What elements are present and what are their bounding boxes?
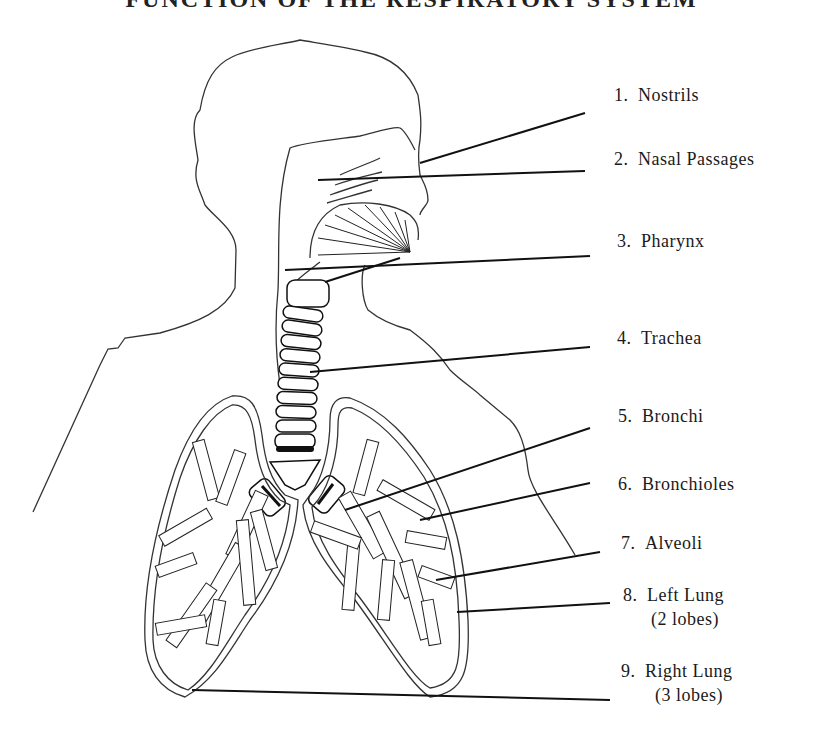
label-alveoli: 7.Alveoli [621, 531, 703, 555]
label-bronchi: 5.Bronchi [618, 404, 704, 428]
bronchiole-tree-right [155, 439, 277, 647]
tongue-muscle-lines [318, 205, 410, 255]
leader-trachea [310, 347, 590, 372]
trachea-rings [275, 305, 324, 452]
label-left-lung: 8.Left Lung (2 lobes) [623, 583, 724, 631]
label-right-lung: 9.Right Lung (3 lobes) [621, 659, 733, 707]
leader-bronchi [345, 428, 590, 510]
leader-right-lung [192, 690, 610, 700]
leader-nostrils [420, 113, 585, 163]
leader-pharynx [285, 256, 590, 270]
leader-left-lung [457, 603, 610, 612]
label-nostrils: 1.Nostrils [614, 83, 699, 107]
label-bronchioles: 6.Bronchioles [618, 472, 735, 496]
leader-nasal-passages [318, 171, 585, 180]
nasal-turbinates [327, 158, 382, 203]
larynx [287, 280, 329, 307]
label-pharynx: 3.Pharynx [617, 229, 705, 253]
label-trachea: 4.Trachea [617, 326, 702, 350]
label-nasal-passages: 2.Nasal Passages [614, 147, 754, 171]
